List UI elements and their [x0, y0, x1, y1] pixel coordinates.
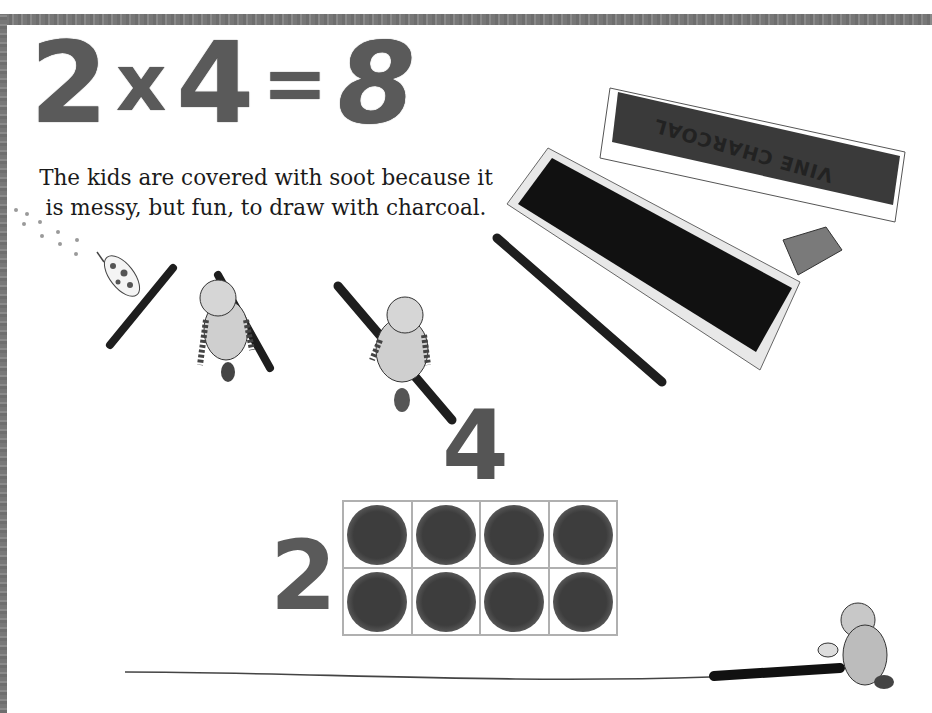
kid-figure-2-icon [372, 297, 428, 412]
array-rows-label: 2 [270, 528, 337, 624]
charcoal-stick-drawing [714, 668, 840, 676]
charcoal-dot-icon [484, 505, 544, 565]
charcoal-dot-icon [416, 572, 476, 632]
eraser-icon [783, 227, 842, 275]
array-cell [343, 501, 412, 568]
spotted-dog-icon [97, 250, 146, 303]
array-cell [480, 501, 549, 568]
array-grid [342, 500, 618, 636]
charcoal-dot-icon [484, 572, 544, 632]
array-cell [412, 568, 481, 635]
charcoal-dot-icon [553, 505, 613, 565]
array-cell [480, 568, 549, 635]
array-cell [343, 568, 412, 635]
charcoal-dot-icon [416, 505, 476, 565]
charcoal-dot-icon [553, 572, 613, 632]
array-cell [412, 501, 481, 568]
paw-prints-icon [14, 208, 79, 256]
array-columns-label: 4 [442, 398, 509, 494]
array-cell [549, 568, 618, 635]
charcoal-drawn-line [125, 672, 710, 679]
array-cell [549, 501, 618, 568]
charcoal-dot-icon [347, 505, 407, 565]
charcoal-dot-icon [347, 572, 407, 632]
kid-figure-3-icon [818, 603, 894, 689]
kid-figure-1-icon [200, 280, 252, 382]
